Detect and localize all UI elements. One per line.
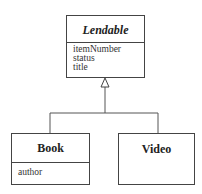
attribute: title	[73, 63, 121, 72]
class-name-book: Book	[12, 141, 89, 156]
class-attributes: itemNumber status title	[73, 45, 121, 72]
attribute: author	[18, 168, 42, 177]
class-name-lendable: Lendable	[67, 23, 144, 38]
generalization-arrowhead-icon	[101, 78, 109, 87]
class-divider	[67, 42, 144, 43]
class-video: Video	[118, 133, 195, 185]
class-attributes: author	[18, 168, 42, 177]
class-lendable: Lendable itemNumber status title	[66, 15, 145, 78]
class-name-video: Video	[119, 142, 194, 157]
class-book: Book author	[11, 133, 90, 185]
class-divider	[12, 162, 89, 163]
